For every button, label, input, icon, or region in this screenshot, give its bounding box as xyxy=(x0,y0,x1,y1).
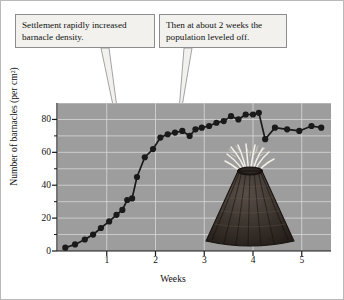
data-point-marker xyxy=(62,245,68,251)
data-point-marker xyxy=(129,195,135,201)
data-point-marker xyxy=(179,128,185,134)
y-tick-label: 80 xyxy=(35,114,51,124)
data-point-marker xyxy=(165,131,171,137)
annotation-plateau-line1: Then at about 2 weeks the xyxy=(166,19,280,31)
data-point-marker xyxy=(284,126,290,132)
data-point-marker xyxy=(150,146,156,152)
data-point-marker xyxy=(296,128,302,134)
data-point-marker xyxy=(90,231,96,237)
data-point-marker xyxy=(235,116,241,122)
data-point-marker xyxy=(308,123,314,129)
y-tick-label: 0 xyxy=(35,246,51,256)
y-axis-title: Number of barnacles (per cm²) xyxy=(8,52,19,202)
x-tick-label: 2 xyxy=(146,255,166,265)
data-point-marker xyxy=(172,130,178,136)
data-point-marker xyxy=(256,110,262,116)
x-tick-label: 4 xyxy=(243,255,263,265)
data-point-marker xyxy=(250,111,256,117)
y-tick-label: 20 xyxy=(35,213,51,223)
annotation-plateau: Then at about 2 weeks the population lev… xyxy=(159,14,287,48)
data-point-marker xyxy=(106,218,112,224)
data-point-marker xyxy=(134,174,140,180)
x-tick-label: 3 xyxy=(194,255,214,265)
y-axis-tick-labels: 020406080 xyxy=(31,1,51,300)
data-point-marker xyxy=(318,125,324,131)
barnacle-illustration xyxy=(198,143,302,251)
data-point-marker xyxy=(206,123,212,129)
data-point-marker xyxy=(221,118,227,124)
x-axis-title: Weeks xyxy=(1,273,344,284)
data-point-marker xyxy=(187,133,193,139)
data-point-marker xyxy=(228,113,234,119)
data-point-marker xyxy=(243,111,249,117)
annotation-plateau-line2: population leveled off. xyxy=(166,31,280,43)
data-point-marker xyxy=(113,212,119,218)
data-point-marker xyxy=(119,207,125,213)
data-point-marker xyxy=(98,225,104,231)
y-tick-label: 60 xyxy=(35,147,51,157)
data-point-marker xyxy=(82,236,88,242)
barnacle-density-figure: Settlement rapidly increased barnacle de… xyxy=(0,0,344,300)
x-tick-label: 5 xyxy=(292,255,312,265)
data-point-marker xyxy=(157,134,163,140)
data-point-marker xyxy=(262,136,268,142)
data-point-marker xyxy=(272,125,278,131)
data-point-marker xyxy=(213,120,219,126)
data-point-marker xyxy=(199,125,205,131)
data-point-marker xyxy=(192,126,198,132)
data-point-marker xyxy=(142,154,148,160)
x-tick-label: 1 xyxy=(97,255,117,265)
y-tick-label: 40 xyxy=(35,180,51,190)
data-point-marker xyxy=(72,241,78,247)
